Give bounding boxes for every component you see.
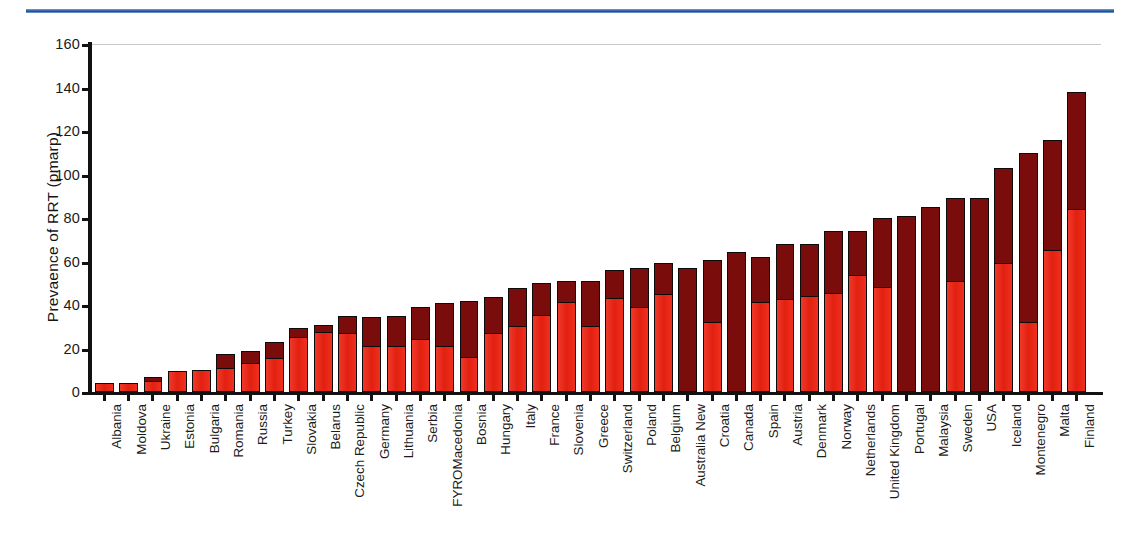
y-tick-label-0: 0	[72, 384, 80, 400]
x-label-text: Bosnia	[474, 404, 489, 445]
x-tick-23	[662, 392, 665, 401]
x-label-bosnia: Bosnia	[474, 363, 489, 404]
x-tick-25	[711, 392, 714, 401]
x-label-text: USA	[984, 404, 999, 432]
x-label-croatia: Croatia	[717, 361, 732, 404]
plot-area	[91, 44, 1101, 392]
x-label-text: Lithuania	[401, 404, 416, 458]
x-label-text: Malaysia	[936, 404, 951, 457]
x-label-text: Montenegro	[1033, 404, 1048, 475]
x-label-turkey: Turkey	[280, 364, 295, 404]
y-tick-80	[82, 218, 91, 221]
y-tick-label-160: 160	[55, 36, 80, 52]
x-tick-36	[978, 392, 981, 401]
y-axis-ticks: 020406080100120140160	[91, 44, 92, 392]
x-label-text: Belarus	[328, 404, 343, 449]
x-tick-2	[151, 392, 154, 401]
x-label-malaysia: Malaysia	[936, 351, 951, 404]
x-label-poland: Poland	[644, 362, 659, 404]
x-tick-33	[905, 392, 908, 401]
y-tick-label-20: 20	[63, 341, 80, 357]
x-label-belarus: Belarus	[328, 359, 343, 404]
x-tick-14	[443, 392, 446, 401]
x-tick-32	[881, 392, 884, 401]
x-label-text: Hungary	[498, 404, 513, 455]
x-tick-38	[1027, 392, 1030, 401]
x-tick-29	[808, 392, 811, 401]
x-label-text: FYROMacedonia	[450, 404, 465, 507]
x-tick-19	[565, 392, 568, 401]
x-label-text: Finland	[1082, 404, 1097, 448]
x-label-netherlands: Netherlands	[863, 332, 878, 404]
x-tick-18	[540, 392, 543, 401]
x-label-text: Austria	[790, 404, 805, 446]
x-label-text: Poland	[644, 404, 659, 446]
header-divider	[26, 9, 1114, 13]
x-label-fyromacedonia: FYROMacedonia	[450, 301, 465, 404]
x-tick-27	[759, 392, 762, 401]
x-label-text: Sweden	[960, 404, 975, 452]
x-tick-28	[783, 392, 786, 401]
x-label-france: France	[547, 362, 562, 404]
x-tick-22	[638, 392, 641, 401]
x-tick-7	[273, 392, 276, 401]
x-label-text: Croatia	[717, 404, 732, 447]
x-label-text: Netherlands	[863, 404, 878, 476]
x-label-slovakia: Slovakia	[304, 353, 319, 404]
x-tick-24	[686, 392, 689, 401]
x-label-lithuania: Lithuania	[401, 350, 416, 404]
x-tick-3	[176, 392, 179, 401]
y-tick-label-80: 80	[63, 210, 80, 226]
x-label-austria: Austria	[790, 362, 805, 404]
x-tick-39	[1051, 392, 1054, 401]
x-label-text: Slovakia	[304, 404, 319, 455]
x-label-text: France	[547, 404, 562, 446]
x-label-australia-new: Australia New	[693, 321, 708, 404]
x-label-canada: Canada	[741, 357, 756, 404]
x-label-text: Russia	[255, 404, 270, 445]
x-label-united-kingdom: United Kingdom	[887, 309, 902, 404]
x-tick-5	[224, 392, 227, 401]
x-tick-11	[370, 392, 373, 401]
x-tick-40	[1075, 392, 1078, 401]
x-label-text: Malta	[1057, 404, 1072, 437]
x-tick-26	[735, 392, 738, 401]
bar-finland	[1067, 92, 1086, 392]
x-label-text: Portugal	[912, 404, 927, 454]
x-label-estonia: Estonia	[182, 359, 197, 404]
x-label-italy: Italy	[523, 379, 538, 404]
x-tick-10	[346, 392, 349, 401]
x-label-finland: Finland	[1082, 360, 1097, 404]
x-label-portugal: Portugal	[912, 354, 927, 404]
plot-top-border	[91, 44, 1101, 45]
x-label-text: Australia New	[693, 404, 708, 487]
x-label-norway: Norway	[839, 359, 854, 404]
x-label-belgium: Belgium	[668, 356, 683, 404]
x-label-text: Canada	[741, 404, 756, 451]
x-label-serbia: Serbia	[425, 365, 440, 404]
x-label-spain: Spain	[766, 370, 781, 404]
x-label-text: Moldova	[134, 404, 149, 455]
x-label-denmark: Denmark	[814, 350, 829, 404]
x-label-usa: USA	[984, 376, 999, 404]
x-label-iceland: Iceland	[1009, 361, 1024, 404]
x-label-text: Czech Republic	[352, 404, 367, 498]
x-label-text: Serbia	[425, 404, 440, 443]
y-tick-120	[82, 131, 91, 134]
x-label-text: Iceland	[1009, 404, 1024, 447]
x-tick-15	[467, 392, 470, 401]
x-label-text: Greece	[596, 404, 611, 448]
y-tick-40	[82, 305, 91, 308]
x-tick-6	[249, 392, 252, 401]
x-label-text: Ukraine	[158, 404, 173, 450]
x-label-text: Denmark	[814, 404, 829, 458]
x-label-hungary: Hungary	[498, 353, 513, 404]
x-tick-0	[103, 392, 106, 401]
y-tick-20	[82, 349, 91, 352]
x-label-text: Albania	[109, 404, 124, 449]
x-label-text: Norway	[839, 404, 854, 449]
x-tick-20	[589, 392, 592, 401]
x-tick-4	[200, 392, 203, 401]
x-tick-35	[954, 392, 957, 401]
x-label-montenegro: Montenegro	[1033, 333, 1048, 404]
